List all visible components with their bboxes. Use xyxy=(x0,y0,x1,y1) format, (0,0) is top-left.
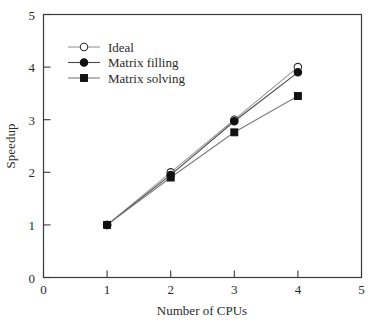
data-point xyxy=(231,118,238,125)
y-tick-label-0: 0 xyxy=(29,271,36,286)
x-axis-title: Number of CPUs xyxy=(157,303,247,318)
y-tick-label-2: 2 xyxy=(29,165,36,180)
x-axis-ticks xyxy=(44,271,362,278)
x-tick-label-2: 2 xyxy=(167,282,174,297)
data-point xyxy=(167,174,174,181)
legend-label: Matrix solving xyxy=(108,71,185,86)
legend-entry-matrix-filling[interactable]: Matrix filling xyxy=(68,55,179,70)
legend-label: Matrix filling xyxy=(108,55,179,70)
y-tick-label-3: 3 xyxy=(29,113,36,128)
legend-label: Ideal xyxy=(108,40,134,55)
chart-legend: IdealMatrix fillingMatrix solving xyxy=(68,40,185,86)
x-tick-label-4: 4 xyxy=(295,282,302,297)
data-point xyxy=(231,129,238,136)
x-tick-label-0: 0 xyxy=(40,282,47,297)
legend-marker xyxy=(80,59,87,66)
data-point xyxy=(294,69,301,76)
legend-entry-matrix-solving[interactable]: Matrix solving xyxy=(68,71,185,86)
legend-marker xyxy=(81,75,88,82)
series-line xyxy=(107,72,298,225)
data-point xyxy=(295,93,302,100)
series-line xyxy=(107,96,298,225)
x-tick-label-5: 5 xyxy=(358,282,365,297)
y-tick-label-1: 1 xyxy=(29,218,36,233)
y-axis-ticks xyxy=(44,15,51,278)
y-tick-label-5: 5 xyxy=(29,8,36,23)
series-layer xyxy=(103,63,301,228)
series-matrix-solving xyxy=(104,93,302,229)
speedup-line-chart: 0 1 2 3 4 5 0 1 2 3 4 5 Number of CPUs S… xyxy=(0,0,379,323)
y-axis-title: Speedup xyxy=(3,124,18,169)
chart-container: 0 1 2 3 4 5 0 1 2 3 4 5 Number of CPUs S… xyxy=(0,0,379,323)
legend-entry-ideal[interactable]: Ideal xyxy=(68,40,134,55)
legend-marker xyxy=(80,43,87,50)
series-matrix-filling xyxy=(103,69,301,229)
x-tick-label-1: 1 xyxy=(104,282,111,297)
series-line xyxy=(107,67,298,225)
data-point xyxy=(104,222,111,229)
y-tick-label-4: 4 xyxy=(29,60,36,75)
x-tick-label-3: 3 xyxy=(231,282,238,297)
